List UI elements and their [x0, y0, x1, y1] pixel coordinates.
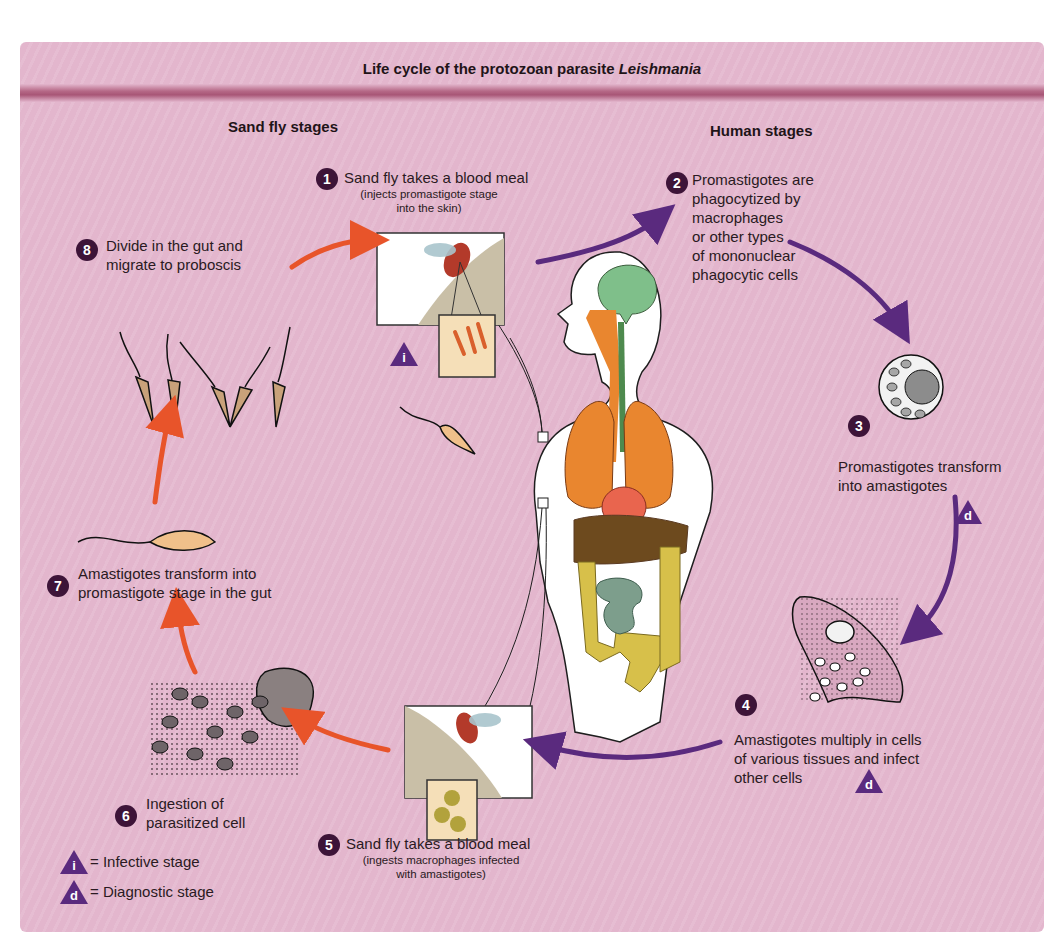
step-badge-4: 4 — [735, 694, 757, 716]
step-8-line-2: migrate to proboscis — [106, 256, 241, 273]
step-badge-3: 3 — [848, 415, 870, 437]
infective-stage-marker: i — [390, 342, 418, 366]
diagnostic-stage-marker-3: d — [954, 500, 982, 524]
infected-tissue-cell-step-4 — [793, 597, 903, 702]
step-badge-2: 2 — [666, 172, 688, 194]
diagnostic-stage-marker-4: d — [855, 769, 883, 793]
step-5-sub-line-1: (ingests macrophages infected — [363, 854, 520, 866]
arrow-6-to-7 — [178, 607, 195, 672]
step-2-line-6: phagocytic cells — [692, 266, 798, 283]
sand-fly-bite-inset-bottom — [405, 706, 532, 840]
step-badge-8: 8 — [76, 239, 98, 261]
step-2-text: Promastigotes are phagocytized by macrop… — [692, 170, 892, 284]
step-badge-6: 6 — [115, 805, 137, 827]
legend-infective-letter: i — [60, 858, 88, 873]
arrow-7-to-8 — [155, 414, 170, 502]
arrow-4-to-5 — [542, 742, 720, 757]
step-1-text: Sand fly takes a blood meal (injects pro… — [344, 168, 544, 215]
step-5-sub-line-2: with amastigotes) — [396, 868, 485, 880]
step-4-line-3: other cells — [734, 769, 802, 786]
macrophage-step-3 — [879, 355, 943, 419]
legend-infective-icon: i — [60, 850, 88, 874]
step-2-line-3: macrophages — [692, 209, 783, 226]
step-2-line-2: phagocytized by — [692, 190, 800, 207]
diagnostic-marker-letter-3: d — [954, 508, 982, 523]
step-7-line-2: promastigote stage in the gut — [78, 584, 271, 601]
step-6-line-2: parasitized cell — [146, 814, 245, 831]
step-5-subtext: (ingests macrophages infected with amast… — [346, 853, 536, 881]
step-4-line-2: of various tissues and infect — [734, 750, 919, 767]
diagram-panel: Life cycle of the protozoan parasite Lei… — [20, 42, 1044, 932]
step-4-text: Amastigotes multiply in cells of various… — [734, 730, 974, 787]
step-badge-7: 7 — [47, 575, 69, 597]
step-5-label: Sand fly takes a blood meal — [346, 835, 530, 852]
legend-diagnostic-letter: d — [60, 888, 88, 903]
step-3-text: Promastigotes transform into amastigotes — [838, 457, 1048, 495]
infective-marker-letter: i — [390, 350, 418, 365]
dividing-promastigotes — [120, 327, 290, 427]
transforming-promastigote — [78, 531, 215, 551]
step-2-line-5: of mononuclear — [692, 247, 795, 264]
legend-diagnostic-label: = Diagnostic stage — [90, 883, 214, 900]
step-1-sub-line-2: into the skin) — [396, 202, 461, 214]
arrow-3-to-4 — [915, 497, 956, 632]
legend-diagnostic-icon: d — [60, 880, 88, 904]
step-1-sub-line-1: (injects promastigote stage — [360, 188, 497, 200]
step-5-text: Sand fly takes a blood meal (ingests mac… — [346, 834, 566, 881]
step-3-line-1: Promastigotes transform — [838, 458, 1001, 475]
promastigote-illustration — [400, 407, 475, 454]
step-2-line-1: Promastigotes are — [692, 171, 814, 188]
step-badge-5: 5 — [318, 834, 340, 856]
arrow-5-to-6 — [298, 718, 388, 750]
step-1-subtext: (injects promastigote stage into the ski… — [344, 187, 514, 215]
step-6-text: Ingestion of parasitized cell — [146, 794, 296, 832]
legend-infective-label: = Infective stage — [90, 853, 200, 870]
step-2-line-4: or other types — [692, 228, 784, 245]
step-7-line-1: Amastigotes transform into — [78, 565, 256, 582]
step-8-text: Divide in the gut and migrate to probosc… — [106, 236, 306, 274]
step-3-line-2: into amastigotes — [838, 477, 947, 494]
step-8-line-1: Divide in the gut and — [106, 237, 243, 254]
step-7-text: Amastigotes transform into promastigote … — [78, 564, 338, 602]
diagnostic-marker-letter-4: d — [855, 777, 883, 792]
step-6-line-1: Ingestion of — [146, 795, 224, 812]
step-1-label: Sand fly takes a blood meal — [344, 169, 528, 186]
ingested-parasitized-cell — [150, 668, 313, 777]
step-badge-1: 1 — [316, 168, 338, 190]
step-4-line-1: Amastigotes multiply in cells — [734, 731, 922, 748]
